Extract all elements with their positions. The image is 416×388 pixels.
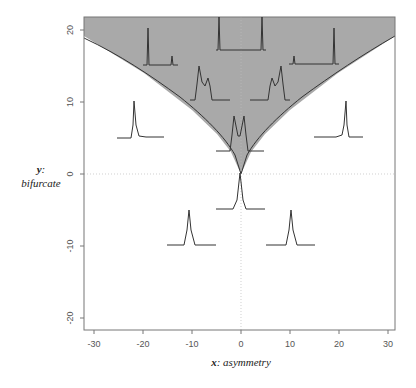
x-axis-name: : asymmetry [217,356,271,368]
inset-below-center [216,173,265,209]
x-tick-label: 0 [238,339,243,349]
bimodal-region [84,17,395,174]
x-tick-label: 10 [285,339,295,349]
y-axis-title-var: y: [35,163,46,175]
cusp-chart: -30 -20 -10 0 10 20 30 20 10 0 -10 -20 x… [0,0,416,388]
inset-below-right [266,210,315,245]
inset-side-left [117,101,164,138]
y-axis [80,30,84,318]
y-tick-label: 0 [65,171,75,176]
y-tick-label: 10 [65,97,75,107]
x-tick-label: -20 [136,339,149,349]
x-axis-title: x: asymmetry [210,356,271,368]
y-tick-label: 20 [65,25,75,35]
x-tick-label: 20 [334,339,344,349]
inset-side-right [314,101,363,137]
y-axis-title-name: bifurcate [21,177,60,189]
y-tick-label: -20 [65,311,75,324]
x-tick-label: -30 [87,339,100,349]
y-tick-label: -10 [65,239,75,252]
x-axis [94,330,388,334]
inset-below-left [167,210,216,245]
x-tick-label: -10 [185,339,198,349]
x-tick-label: 30 [383,339,393,349]
